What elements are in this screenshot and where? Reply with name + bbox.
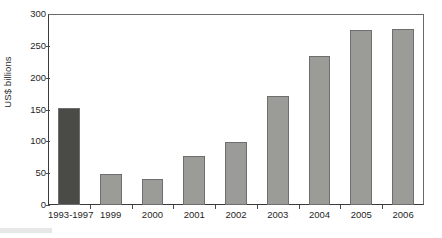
chart-screenshot: US$ billions 050100150200250300 1993-199… xyxy=(0,0,442,238)
bar xyxy=(58,108,80,205)
x-axis-tick-label: 2006 xyxy=(382,209,424,221)
y-axis-tick-label: 300 xyxy=(20,9,46,19)
x-axis-tick-label: 2004 xyxy=(299,209,341,221)
bar xyxy=(350,30,372,205)
y-axis-tick-mark xyxy=(46,110,50,111)
x-axis-tick-label: 2005 xyxy=(340,209,382,221)
bar xyxy=(225,142,247,205)
scan-artifact xyxy=(0,228,52,233)
y-axis-tick-mark xyxy=(46,78,50,79)
x-axis-tick-label: 2001 xyxy=(173,209,215,221)
y-axis-tick-label: 150 xyxy=(20,105,46,115)
bar xyxy=(142,179,164,205)
y-axis-tick-mark xyxy=(46,205,50,206)
y-axis-tick-mark xyxy=(46,46,50,47)
y-axis-tick-label: 250 xyxy=(20,41,46,51)
x-axis-tick-label: 2003 xyxy=(257,209,299,221)
y-axis-tick-group: 050100150200250300 xyxy=(18,0,46,238)
y-axis-tick-label: 200 xyxy=(20,73,46,83)
x-axis-tick-label: 1993-1997 xyxy=(48,209,90,221)
x-axis-tick-label: 1999 xyxy=(90,209,132,221)
x-axis-tick-label: 2000 xyxy=(132,209,174,221)
bar xyxy=(100,174,122,205)
y-axis-tick-mark xyxy=(46,141,50,142)
bar xyxy=(183,156,205,205)
bars-layer xyxy=(48,14,424,205)
y-axis-tick-label: 0 xyxy=(20,200,46,210)
x-axis-tick-label: 2002 xyxy=(215,209,257,221)
bar xyxy=(392,29,414,205)
bar xyxy=(309,56,331,205)
y-axis-tick-label: 100 xyxy=(20,136,46,146)
y-axis-tick-label: 50 xyxy=(20,168,46,178)
y-axis-tick-mark xyxy=(46,173,50,174)
y-axis-title: US$ billions xyxy=(2,42,18,122)
bar xyxy=(267,96,289,205)
